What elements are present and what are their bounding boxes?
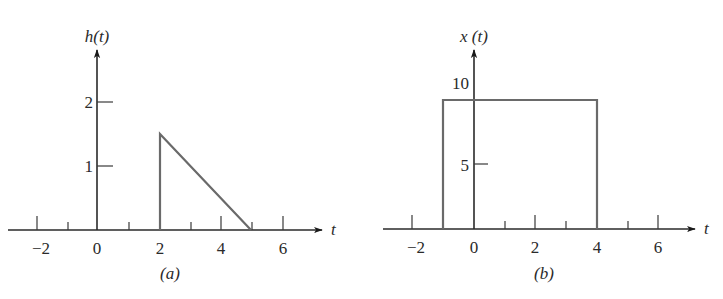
x-tick-label: 0 <box>470 238 479 257</box>
x-tick-label: −2 <box>32 239 50 258</box>
y-axis-label-a: h(t) <box>85 27 110 46</box>
y-tick-label: 10 <box>452 74 469 93</box>
panel-caption-a: (a) <box>160 264 180 283</box>
x-tick-label: 2 <box>156 239 165 258</box>
y-axis-label-b: x (t) <box>459 27 488 46</box>
panel-b: −2 0 2 4 6 5 10 x (t) t (b) <box>383 27 710 283</box>
y-tick-label: 1 <box>85 157 94 176</box>
panel-a: −2 0 2 4 6 1 2 h(t) t (a) <box>8 27 337 283</box>
x-tick-label: 2 <box>531 238 540 257</box>
x-tick-label: 6 <box>654 238 663 257</box>
x-tick-label: −2 <box>407 238 425 257</box>
x-tick-label: 6 <box>279 239 288 258</box>
figure: −2 0 2 4 6 1 2 h(t) t (a) −2 0 <box>0 0 723 299</box>
x-tick-label: 4 <box>217 239 226 258</box>
y-ticks-a <box>97 102 113 166</box>
x-ticks-b <box>412 215 658 229</box>
x-tick-label: 4 <box>593 238 602 257</box>
y-tick-label: 2 <box>85 93 94 112</box>
x-axis-label-b: t <box>704 219 710 238</box>
panel-caption-b: (b) <box>534 264 554 283</box>
x-axis-label-a: t <box>331 220 337 239</box>
x-tick-label: 0 <box>93 239 102 258</box>
y-tick-label: 5 <box>461 156 470 175</box>
h-signal-triangle <box>160 134 251 230</box>
